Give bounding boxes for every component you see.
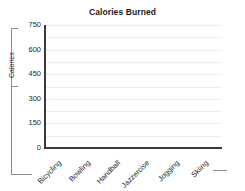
chart-container: Calories Burned Calories 015030045060075…	[0, 0, 245, 191]
x-tick-label: Bicycling	[0, 159, 62, 191]
x-axis-tick-labels: BicyclingBowlingHandballJazzerciseJoggin…	[0, 0, 245, 191]
